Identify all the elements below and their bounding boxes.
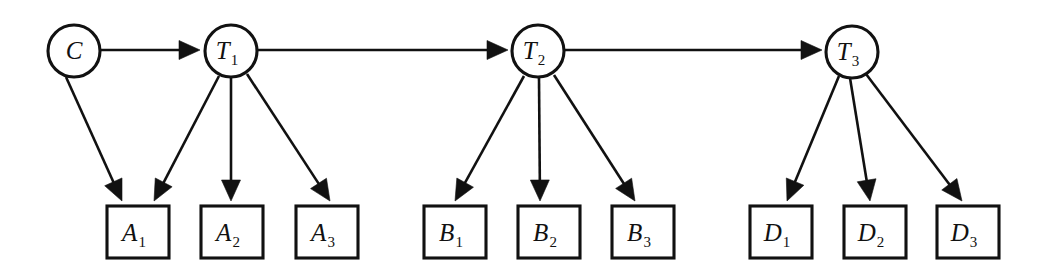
arrowhead-icon	[530, 180, 549, 201]
edge-c-to-t1	[101, 41, 200, 60]
box-node-b3[interactable]: B3	[612, 206, 674, 258]
node-shape-circle[interactable]	[512, 25, 564, 77]
graph-svg: CT1T2T3A1A2A3B1B2B3D1D2D3	[0, 0, 1052, 268]
arrowhead-icon	[616, 178, 635, 201]
node-shape-rect[interactable]	[612, 206, 674, 258]
edge-t1-to-a2	[222, 78, 241, 201]
node-label-c: C	[66, 37, 83, 64]
circle-node-t1[interactable]: T1	[205, 25, 257, 77]
edge-t2-to-b1	[455, 76, 524, 201]
box-node-a2[interactable]: A2	[201, 206, 263, 258]
edge-t2-to-t3	[565, 41, 822, 60]
edge-line	[247, 74, 321, 188]
box-node-b1[interactable]: B1	[424, 206, 486, 258]
arrowhead-icon	[942, 179, 962, 201]
box-node-a1[interactable]: A1	[107, 206, 169, 258]
edge-t3-to-d3	[866, 74, 962, 201]
box-node-d2[interactable]: D2	[844, 206, 906, 258]
edge-line	[554, 75, 626, 188]
arrowhead-icon	[455, 178, 473, 201]
edge-t3-to-d1	[786, 76, 839, 201]
edge-t1-to-a3	[247, 74, 330, 201]
box-node-a3[interactable]: A3	[296, 206, 358, 258]
node-shape-rect[interactable]	[296, 206, 358, 258]
box-node-d3[interactable]: D3	[937, 206, 999, 258]
arrowhead-icon	[487, 41, 508, 60]
arrowhead-icon	[801, 41, 822, 60]
edge-t1-to-a1	[154, 76, 219, 201]
circle-node-t2[interactable]: T2	[512, 25, 564, 77]
box-node-b2[interactable]: B2	[518, 206, 580, 258]
node-shape-circle[interactable]	[826, 26, 878, 78]
edge-line	[66, 77, 115, 186]
arrowhead-icon	[857, 179, 876, 201]
nodes-layer: CT1T2T3A1A2A3B1B2B3D1D2D3	[48, 25, 999, 258]
arrowhead-icon	[311, 178, 330, 201]
box-node-d1[interactable]: D1	[750, 206, 812, 258]
circle-node-c[interactable]: C	[48, 25, 100, 77]
edge-t3-to-d2	[850, 78, 876, 201]
diagram-canvas: CT1T2T3A1A2A3B1B2B3D1D2D3	[0, 0, 1052, 268]
edge-line	[161, 76, 219, 187]
arrowhead-icon	[179, 41, 200, 60]
edge-line	[850, 78, 867, 185]
arrowhead-icon	[222, 180, 241, 201]
node-shape-rect[interactable]	[107, 206, 169, 258]
edge-line	[866, 74, 952, 188]
circle-node-t3[interactable]: T3	[826, 26, 878, 78]
edge-t2-to-b3	[554, 75, 635, 201]
node-shape-rect[interactable]	[424, 206, 486, 258]
edge-t1-to-t2	[258, 41, 508, 60]
arrowhead-icon	[786, 178, 804, 201]
edge-line	[463, 76, 524, 187]
edge-c-to-a1	[66, 77, 122, 201]
node-shape-rect[interactable]	[201, 206, 263, 258]
node-shape-circle[interactable]	[205, 25, 257, 77]
node-shape-rect[interactable]	[518, 206, 580, 258]
edge-line	[539, 78, 540, 185]
edge-line	[793, 76, 839, 186]
edge-t2-to-b2	[530, 78, 549, 201]
